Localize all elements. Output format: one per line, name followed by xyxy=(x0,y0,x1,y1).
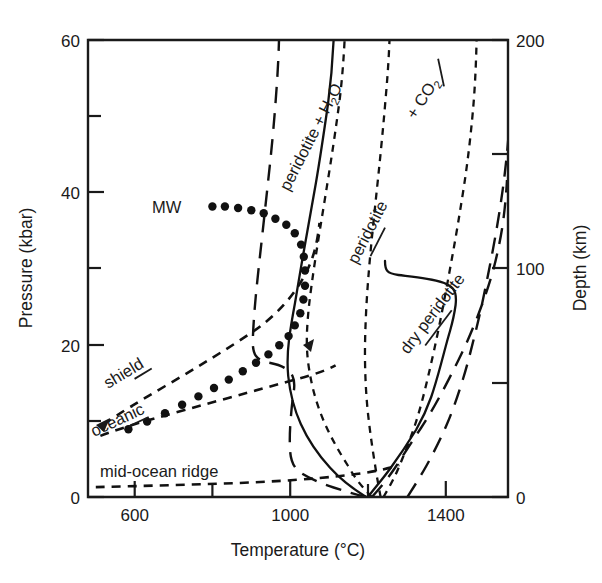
right-ticklabel-200: 200 xyxy=(516,32,544,51)
curve-shield xyxy=(104,223,320,425)
left-axis-tick-labels: 60 40 20 0 xyxy=(61,32,80,508)
mw-dot xyxy=(282,221,290,229)
mw-dot xyxy=(178,401,186,409)
mw-dot xyxy=(284,332,292,340)
series-mw-dots xyxy=(124,202,309,433)
bottom-axis-ticks xyxy=(135,481,446,497)
mw-dot xyxy=(194,392,202,400)
left-ticklabel-0: 0 xyxy=(71,489,80,508)
bottom-axis-title: Temperature (°C) xyxy=(231,540,365,560)
mw-dot xyxy=(124,425,132,433)
mw-dot xyxy=(264,350,272,358)
right-ticklabel-0: 0 xyxy=(516,489,525,508)
left-ticklabel-40: 40 xyxy=(61,184,80,203)
curve-co2-dashed xyxy=(384,40,477,497)
label-peridotite-h2o-group: peridotite + H2O xyxy=(276,80,348,195)
mw-dot xyxy=(291,229,299,237)
mw-dot xyxy=(301,282,309,290)
left-ticklabel-20: 20 xyxy=(61,337,80,356)
bottom-ticklabel-600: 600 xyxy=(121,506,149,525)
geotherm-arrow-marker-mid xyxy=(303,339,314,352)
right-axis-tick-labels: 200 100 0 xyxy=(516,32,544,508)
label-mid-ocean-ridge: mid-ocean ridge xyxy=(100,462,218,480)
left-axis-title: Pressure (kbar) xyxy=(16,208,36,329)
bottom-ticklabel-1000: 1000 xyxy=(271,506,309,525)
mw-dot xyxy=(225,375,233,383)
mw-dot xyxy=(252,359,260,367)
phase-diagram-figure: 60 40 20 0 Pressure (kbar) 200 100 0 Dep… xyxy=(0,0,602,583)
bottom-axis-tick-labels: 600 1000 1400 xyxy=(121,506,465,525)
mw-dot xyxy=(260,209,268,217)
mw-dot xyxy=(234,204,242,212)
mw-dot xyxy=(210,384,218,392)
mw-dot xyxy=(297,240,305,248)
right-axis-title: Depth (km) xyxy=(570,225,590,312)
label-co2-group: + CO2 xyxy=(402,58,454,123)
label-oceanic: oceanic xyxy=(88,399,147,439)
mw-dot xyxy=(221,202,229,210)
chart-svg: 60 40 20 0 Pressure (kbar) 200 100 0 Dep… xyxy=(0,0,602,583)
mw-dot xyxy=(271,215,279,223)
mw-dot xyxy=(247,206,255,214)
svg-text:peridotite + H2O: peridotite + H2O xyxy=(276,80,348,195)
mw-dot xyxy=(291,321,299,329)
curves-layer xyxy=(96,40,509,497)
left-ticklabel-60: 60 xyxy=(61,32,80,51)
mw-dot xyxy=(239,367,247,375)
mw-dot xyxy=(299,295,307,303)
right-ticklabel-100: 100 xyxy=(516,260,544,279)
mw-dot xyxy=(300,253,308,261)
svg-text:+ CO2: + CO2 xyxy=(402,74,444,124)
bottom-ticklabel-1400: 1400 xyxy=(427,506,465,525)
label-oceanic-group: oceanic xyxy=(88,399,149,442)
label-mw: MW xyxy=(152,198,182,216)
mw-dot xyxy=(208,202,216,210)
mw-dot xyxy=(275,341,283,349)
curve-dry-peridotite-longdash xyxy=(372,180,507,497)
mw-dot xyxy=(301,266,309,274)
mw-dot xyxy=(161,409,169,417)
mw-dot xyxy=(296,309,304,317)
label-shield: shield xyxy=(100,354,146,392)
label-peridotite-h2o-main: peridotite + H xyxy=(276,97,337,193)
label-shield-group: shield xyxy=(100,351,151,393)
label-dry-peridotite: dry peridotite xyxy=(396,270,468,357)
